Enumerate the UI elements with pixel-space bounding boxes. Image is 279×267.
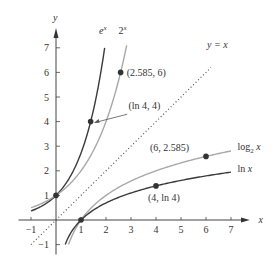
- x-tick-label: 6: [204, 224, 209, 235]
- y-tick-label: −1: [38, 239, 49, 250]
- x-tick-label: 3: [129, 224, 134, 235]
- annotation-arrow: [95, 114, 128, 122]
- axes: [19, 28, 250, 254]
- y-tick-label: 3: [44, 141, 49, 152]
- x-tick-label: −1: [26, 224, 37, 235]
- data-point: [203, 154, 209, 160]
- y-axis-label: y: [52, 12, 58, 23]
- y-tick-label: 6: [44, 67, 49, 78]
- arrowhead-icon: [94, 119, 99, 123]
- annotation-label: (2.585, 6): [127, 67, 166, 79]
- x-axis-label: x: [258, 214, 264, 225]
- function-graph: xy−11234567−11234567ex2xy = xlog2 xln x(…: [0, 0, 279, 267]
- series-label: ex: [99, 24, 107, 36]
- annotation-label: (ln 4, 4): [129, 100, 161, 112]
- y-axis-arrow-icon: [54, 28, 59, 38]
- y-tick-label: 2: [44, 165, 49, 176]
- series-label: 2x: [119, 24, 128, 36]
- y-tick-label: 5: [44, 92, 49, 103]
- series-label: log2 x: [238, 141, 262, 155]
- data-point: [153, 183, 159, 189]
- data-point: [118, 70, 124, 76]
- x-tick-label: 7: [229, 224, 234, 235]
- x-tick-label: 2: [104, 224, 109, 235]
- x-tick-label: 1: [79, 224, 84, 235]
- y-tick-label: 7: [44, 42, 49, 53]
- y-tick-label: 4: [44, 116, 49, 127]
- series-label: y = x: [206, 39, 228, 50]
- data-point: [88, 119, 94, 125]
- data-point: [53, 193, 59, 199]
- x-tick-label: 4: [154, 224, 159, 235]
- curve-y-x: [31, 67, 211, 244]
- x-axis-arrow-icon: [241, 218, 250, 223]
- data-point: [78, 217, 84, 223]
- y-tick-label: 1: [44, 190, 49, 201]
- annotation-label: (6, 2.585): [150, 142, 189, 154]
- annotation-label: (4, ln 4): [148, 192, 180, 204]
- series-label: ln x: [238, 163, 253, 174]
- x-tick-label: 5: [179, 224, 184, 235]
